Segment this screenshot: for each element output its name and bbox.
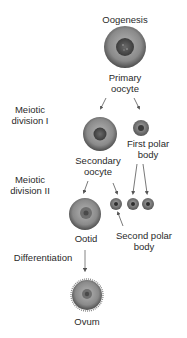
label-meiotic-division-1: Meiotic division I xyxy=(4,104,56,126)
arrow-to-secondary-oocyte xyxy=(101,98,106,108)
label-meiotic-division-2: Meiotic division II xyxy=(4,174,56,196)
diagram-title: Oogenesis xyxy=(100,14,150,25)
label-secondary-oocyte: Secondary oocyte xyxy=(68,155,128,177)
arrow-to-ootid xyxy=(84,181,88,192)
second-polar-bodies xyxy=(110,198,154,210)
ovum-cell xyxy=(71,279,103,311)
label-first-polar-body: First polar body xyxy=(120,138,176,160)
arrow-to-second-polar-body-b xyxy=(133,164,137,193)
label-second-polar-body: Second polar body xyxy=(112,230,176,252)
ootid-cell xyxy=(69,198,101,230)
label-ootid: Ootid xyxy=(70,233,102,244)
label-differentiation: Differentiation xyxy=(10,252,76,263)
arrow-to-first-polar-body xyxy=(134,98,139,108)
secondary-oocyte-cell xyxy=(83,117,117,151)
arrow-label-second-polar-body xyxy=(118,213,123,226)
label-ovum: Ovum xyxy=(70,316,104,327)
first-polar-body-cell xyxy=(133,120,149,136)
primary-oocyte-cell xyxy=(104,26,146,68)
arrow-to-second-polar-body-c xyxy=(143,164,147,193)
arrow-to-second-polar-body-a xyxy=(113,183,117,193)
label-primary-oocyte: Primary oocyte xyxy=(100,72,150,94)
